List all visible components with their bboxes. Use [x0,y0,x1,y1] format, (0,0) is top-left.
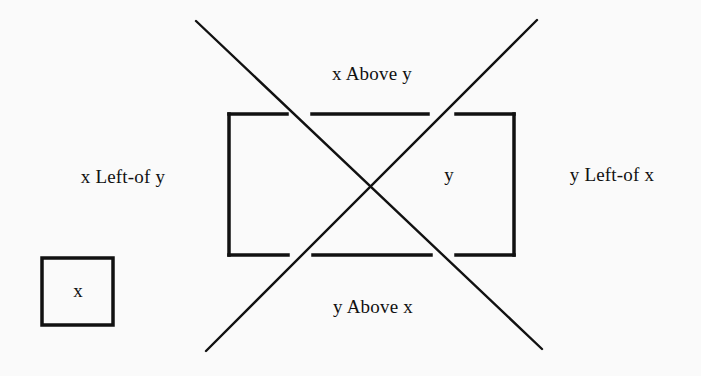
region-label-right: y Left-of x [570,165,655,184]
y-box-label: y [444,165,454,184]
region-label-above: x Above y [332,64,412,83]
spatial-relations-diagram [0,0,701,376]
region-label-below: y Above x [333,297,413,316]
region-label-left: x Left-of y [81,167,166,186]
x-box-label: x [73,281,83,300]
